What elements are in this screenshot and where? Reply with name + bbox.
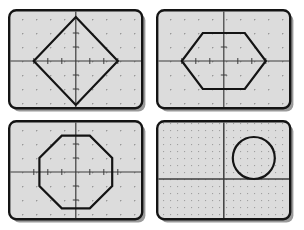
- geoboard-figure: [0, 0, 304, 230]
- panel-grid: [0, 0, 304, 230]
- panel-hexagon-canvas: [156, 9, 296, 113]
- panel-circle[interactable]: [156, 120, 296, 224]
- panel-hexagon[interactable]: [156, 9, 296, 113]
- panel-diamond-canvas: [8, 9, 148, 113]
- panel-circle-canvas: [156, 120, 296, 224]
- panel-octagon[interactable]: [8, 120, 148, 224]
- panel-diamond[interactable]: [8, 9, 148, 113]
- panel-octagon-canvas: [8, 120, 148, 224]
